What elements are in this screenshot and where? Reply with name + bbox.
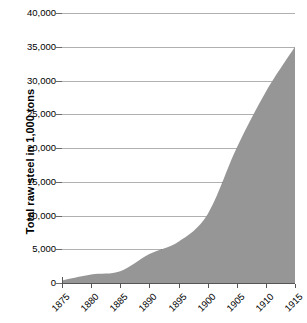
x-axis-tick-mark — [62, 284, 63, 288]
x-axis-tick-label: 1890 — [130, 291, 159, 320]
y-axis-tick-mark — [55, 81, 62, 82]
y-axis-tick-label: 10,000 — [0, 210, 56, 222]
y-axis-tick-label: 40,000 — [0, 7, 56, 19]
x-axis-tick-label: 1905 — [218, 291, 247, 320]
x-axis-tick-label: 1900 — [188, 291, 217, 320]
area-series-steel — [62, 13, 295, 284]
y-axis-tick-label: 30,000 — [0, 75, 56, 87]
y-axis-tick-label: 15,000 — [0, 176, 56, 188]
y-axis-tick-label: 35,000 — [0, 41, 56, 53]
y-axis-tick-mark — [55, 283, 62, 284]
y-axis-tick-mark — [55, 47, 62, 48]
y-axis-tick-mark — [55, 249, 62, 250]
y-axis-line — [62, 277, 63, 284]
x-axis-tick-mark — [179, 284, 180, 288]
x-axis-tick-label: 1880 — [72, 291, 101, 320]
x-axis-tick-mark — [237, 284, 238, 288]
x-axis-tick-label: 1875 — [43, 291, 72, 320]
y-axis-tick-label: 25,000 — [0, 108, 56, 120]
x-axis-tick-mark — [91, 284, 92, 288]
y-axis-tick-mark — [55, 182, 62, 183]
y-axis-tick-label: 0 — [0, 277, 56, 289]
y-axis-tick-label: 5,000 — [0, 243, 56, 255]
x-axis-tick-label: 1915 — [276, 291, 305, 320]
x-axis-tick-label: 1910 — [247, 291, 276, 320]
x-axis-tick-label: 1895 — [159, 291, 188, 320]
y-axis-tick-label: 20,000 — [0, 142, 56, 154]
x-axis-tick-mark — [266, 284, 267, 288]
chart-container: Total raw steel in 1,000 tons 40,00035,0… — [0, 0, 307, 323]
x-axis-tick-mark — [208, 284, 209, 288]
x-axis-tick-mark — [295, 284, 296, 288]
y-axis-tick-mark — [55, 13, 62, 14]
x-axis-tick-label: 1885 — [101, 291, 130, 320]
x-axis-tick-mark — [149, 284, 150, 288]
y-axis-tick-mark — [55, 114, 62, 115]
x-axis-tick-mark — [120, 284, 121, 288]
y-axis-tick-mark — [55, 148, 62, 149]
y-axis-tick-mark — [55, 216, 62, 217]
area-fill-path — [62, 47, 295, 283]
